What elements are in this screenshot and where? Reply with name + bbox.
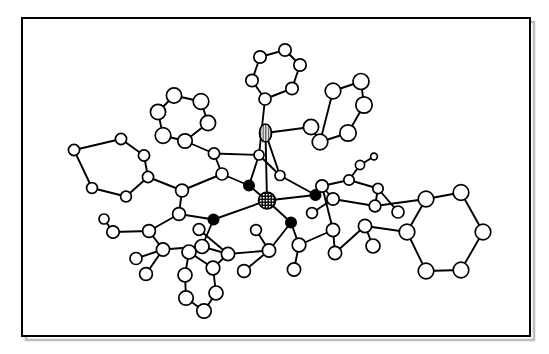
atom-cross-hatched (259, 192, 276, 209)
atom-open-circle (87, 183, 98, 194)
atom-open-circle (303, 119, 318, 134)
atom-open-circle (292, 238, 306, 252)
atom-open-circle (392, 206, 404, 218)
atom-open-circle (371, 153, 378, 160)
atom-open-circle (68, 144, 79, 155)
atom-vertical-striped (260, 124, 272, 142)
atom-open-circle (353, 74, 369, 90)
atom-open-circle (193, 94, 209, 110)
atom-open-circle (287, 263, 300, 276)
atom-open-circle (193, 224, 205, 236)
atom-open-circle (399, 224, 415, 240)
atom-open-circle (312, 134, 328, 150)
atom-open-circle (166, 88, 181, 103)
atom-filled-circle (286, 217, 297, 228)
atom-open-circle (418, 191, 434, 207)
atom-open-circle (275, 171, 285, 181)
atom-open-circle (418, 263, 434, 279)
atom-open-circle (326, 223, 339, 236)
atom-open-circle (176, 184, 189, 197)
atom-open-circle (344, 175, 354, 185)
atom-open-circle (130, 253, 142, 265)
atom-open-circle (206, 261, 220, 275)
atom-open-circle (453, 185, 469, 201)
atom-open-circle (200, 115, 215, 130)
atom-open-circle (216, 168, 228, 180)
atom-open-circle (259, 93, 271, 105)
atom-open-circle (279, 44, 291, 56)
atom-open-circle (307, 208, 318, 219)
atom-open-circle (115, 133, 126, 144)
atom-open-circle (140, 268, 153, 281)
atom-open-circle (453, 262, 469, 278)
atom-open-circle (197, 304, 211, 318)
molecular-structure-figure (0, 0, 549, 354)
atom-open-circle (328, 246, 341, 259)
atom-open-circle (99, 214, 109, 224)
atom-open-circle (355, 160, 364, 169)
atom-filled-circle (208, 214, 219, 225)
atom-open-circle (156, 243, 169, 256)
atom-open-circle (208, 148, 219, 159)
atom-open-circle (121, 191, 132, 202)
atom-open-circle (150, 104, 165, 119)
atom-open-circle (294, 59, 306, 71)
figure-page (0, 0, 549, 354)
atom-open-circle (173, 208, 186, 221)
atom-open-circle (142, 171, 153, 182)
atom-open-circle (340, 125, 356, 141)
atom-open-circle (195, 240, 209, 254)
atom-open-circle (286, 82, 298, 94)
atom-open-circle (179, 291, 193, 305)
atom-open-circle (262, 244, 275, 257)
atom-open-circle (155, 128, 171, 144)
atom-open-circle (221, 247, 234, 260)
atom-filled-circle (244, 180, 255, 191)
atom-open-circle (251, 225, 262, 236)
atom-open-circle (182, 245, 196, 259)
atom-open-circle (107, 226, 119, 238)
atom-open-circle (356, 97, 372, 113)
atom-open-circle (316, 180, 328, 192)
atom-open-circle (254, 51, 266, 63)
atom-open-circle (143, 225, 156, 238)
atom-open-circle (475, 224, 491, 240)
atom-open-circle (246, 74, 258, 86)
atom-open-circle (358, 219, 371, 232)
atom-open-circle (327, 193, 339, 205)
atom-open-circle (254, 150, 264, 160)
atom-open-circle (178, 134, 192, 148)
atom-open-circle (209, 286, 223, 300)
atom-open-circle (366, 239, 380, 253)
atom-open-circle (369, 200, 381, 212)
atom-open-circle (178, 268, 192, 282)
atom-open-circle (373, 183, 383, 193)
atom-open-circle (238, 265, 251, 278)
atom-open-circle (138, 150, 149, 161)
atom-open-circle (325, 83, 341, 99)
